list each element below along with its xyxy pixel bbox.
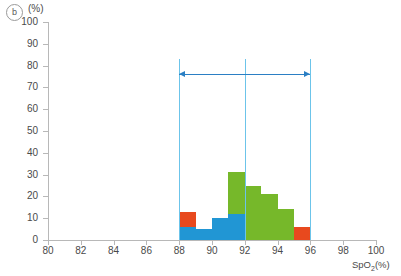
x-axis-tick-label: 80 xyxy=(36,245,60,256)
span-arrow-line xyxy=(179,74,310,75)
y-axis-tick-label: 40 xyxy=(10,147,38,158)
histogram-bar-green xyxy=(261,194,277,240)
y-axis-tick xyxy=(43,87,48,88)
y-axis-tick-label: 60 xyxy=(10,103,38,114)
y-axis-tick xyxy=(43,196,48,197)
histogram-bar-green xyxy=(228,172,244,213)
x-axis-tick-label: 98 xyxy=(331,245,355,256)
x-axis-tick-label: 84 xyxy=(102,245,126,256)
y-axis-line xyxy=(48,22,49,240)
histogram-bar-orange xyxy=(294,227,310,240)
reference-line-96 xyxy=(310,59,311,240)
x-axis-title-main: SpO xyxy=(352,259,371,270)
x-axis-tick-label: 86 xyxy=(134,245,158,256)
histogram-bar-green xyxy=(278,209,294,240)
y-axis-tick xyxy=(43,22,48,23)
y-axis-tick-label: 20 xyxy=(10,190,38,201)
histogram-bar-blue xyxy=(179,227,195,240)
y-axis-tick xyxy=(43,175,48,176)
x-axis-tick-label: 94 xyxy=(266,245,290,256)
histogram-bar-blue xyxy=(212,218,228,240)
y-axis-tick-label: 10 xyxy=(10,212,38,223)
y-axis-tick xyxy=(43,131,48,132)
y-axis-tick xyxy=(43,153,48,154)
span-arrow-head-left xyxy=(179,71,185,77)
x-axis-title: SpO2(%) xyxy=(352,259,390,272)
x-axis-tick-label: 88 xyxy=(167,245,191,256)
y-axis-tick-label: 70 xyxy=(10,81,38,92)
y-axis-tick-label: 90 xyxy=(10,38,38,49)
y-axis-tick xyxy=(43,109,48,110)
y-axis-tick-label: 100 xyxy=(10,16,38,27)
y-axis-tick xyxy=(43,44,48,45)
y-axis-tick xyxy=(43,66,48,67)
reference-line-92 xyxy=(245,59,246,240)
y-axis-tick xyxy=(43,218,48,219)
x-axis-tick-label: 100 xyxy=(364,245,388,256)
histogram-bar-orange xyxy=(179,212,195,227)
y-axis-tick-label: 30 xyxy=(10,169,38,180)
histogram-bar-blue xyxy=(228,214,244,240)
y-axis-tick-label: 0 xyxy=(10,234,38,245)
y-axis-tick-label: 50 xyxy=(10,125,38,136)
plot-area: 0102030405060708090100808284868890929496… xyxy=(0,0,401,276)
chart-root: b (%) 0102030405060708090100808284868890… xyxy=(0,0,401,276)
x-axis-title-unit: (%) xyxy=(375,259,390,270)
reference-line-88 xyxy=(179,59,180,240)
x-axis-tick-label: 92 xyxy=(233,245,257,256)
x-axis-tick-label: 96 xyxy=(298,245,322,256)
histogram-bar-green xyxy=(245,186,261,241)
span-arrow-head-right xyxy=(304,71,310,77)
x-axis-tick-label: 82 xyxy=(69,245,93,256)
histogram-bar-blue xyxy=(196,229,212,240)
y-axis-tick-label: 80 xyxy=(10,60,38,71)
x-axis-tick-label: 90 xyxy=(200,245,224,256)
